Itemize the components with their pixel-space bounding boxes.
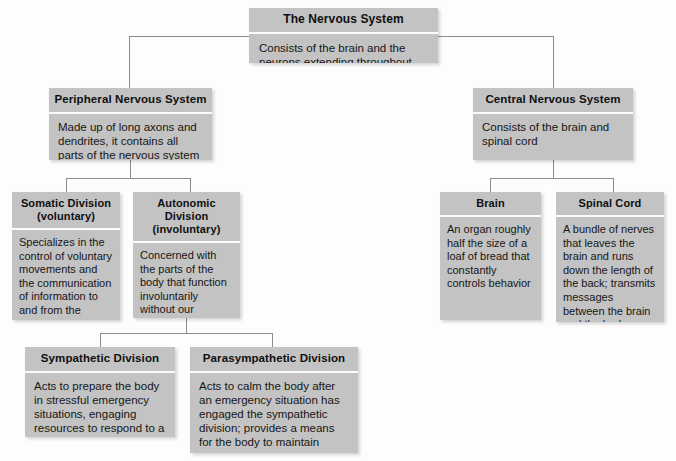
node-body: Made up of long axons and dendrites, it … xyxy=(49,114,212,161)
node-header: Peripheral Nervous System xyxy=(49,88,212,114)
connector-parasympathetic-drop xyxy=(272,333,273,347)
node-spinal-cord[interactable]: Spinal Cord A bundle of nerves that leav… xyxy=(556,192,664,322)
node-header: Sympathetic Division xyxy=(25,347,175,373)
connector-root-right-horizontal xyxy=(437,36,554,37)
connector-central-bus xyxy=(490,178,614,179)
connector-spinal-cord-drop xyxy=(613,178,614,192)
node-peripheral-nervous-system[interactable]: Peripheral Nervous System Made up of lon… xyxy=(49,88,212,160)
connector-autonomic-bus xyxy=(100,333,273,334)
node-body: Acts to prepare the body in stressful em… xyxy=(25,373,175,438)
node-body: An organ roughly half the size of a loaf… xyxy=(440,217,541,297)
node-header: Spinal Cord xyxy=(556,192,664,217)
node-body: A bundle of nerves that leaves the brain… xyxy=(556,217,664,322)
connector-root-left-vertical xyxy=(129,36,130,88)
node-sympathetic-division[interactable]: Sympathetic Division Acts to prepare the… xyxy=(25,347,175,437)
connector-somatic-drop xyxy=(66,178,67,192)
node-body: Consists of the brain and the neurons ex… xyxy=(249,34,438,64)
connector-root-left-horizontal xyxy=(129,36,251,37)
connector-autonomic-stem xyxy=(186,318,187,334)
node-header: Autonomic Division (involuntary) xyxy=(133,192,240,243)
node-body: Specializes in the control of voluntary … xyxy=(12,230,120,320)
connector-root-right-vertical xyxy=(553,36,554,88)
node-header: Somatic Division (voluntary) xyxy=(12,192,120,230)
node-central-nervous-system[interactable]: Central Nervous System Consists of the b… xyxy=(473,88,633,160)
connector-peripheral-stem xyxy=(130,160,131,179)
node-body: Acts to calm the body after an emergency… xyxy=(190,373,358,454)
connector-peripheral-bus xyxy=(66,178,191,179)
node-header: The Nervous System xyxy=(249,8,438,34)
node-body: Consists of the brain and spinal cord xyxy=(473,114,633,154)
node-autonomic-division[interactable]: Autonomic Division (involuntary) Concern… xyxy=(133,192,240,318)
connector-autonomic-drop xyxy=(190,178,191,192)
node-header: Brain xyxy=(440,192,541,217)
node-header: Parasympathetic Division xyxy=(190,347,358,373)
node-body: Concerned with the parts of the body tha… xyxy=(133,243,240,318)
node-header: Central Nervous System xyxy=(473,88,633,114)
node-parasympathetic-division[interactable]: Parasympathetic Division Acts to calm th… xyxy=(190,347,358,453)
node-brain[interactable]: Brain An organ roughly half the size of … xyxy=(440,192,541,320)
connector-central-stem xyxy=(553,160,554,179)
connector-brain-drop xyxy=(490,178,491,192)
nervous-system-diagram: The Nervous System Consists of the brain… xyxy=(0,0,676,461)
node-somatic-division[interactable]: Somatic Division (voluntary) Specializes… xyxy=(12,192,120,320)
node-the-nervous-system[interactable]: The Nervous System Consists of the brain… xyxy=(249,8,438,63)
connector-sympathetic-drop xyxy=(100,333,101,347)
